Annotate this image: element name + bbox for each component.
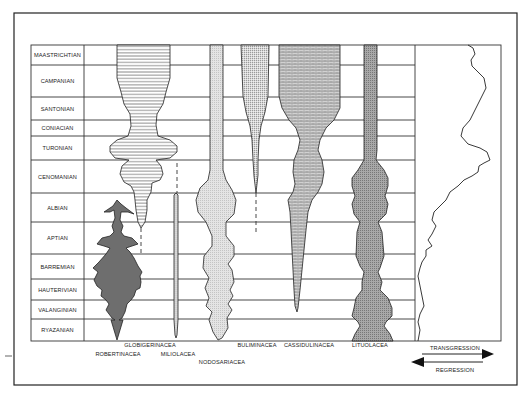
stage-label: RYAZANIAN xyxy=(41,327,73,333)
sea-level-curve xyxy=(418,45,490,341)
stage-label: VALANGINIAN xyxy=(38,307,76,313)
stage-label: BARREMIAN xyxy=(40,264,74,270)
stage-label: ALBIAN xyxy=(47,205,68,211)
taxon-labels: ROBERTINACEA GLOBIGERINACEA MILIOLACEA N… xyxy=(95,342,388,365)
miliolacea-range xyxy=(174,193,178,338)
transgression-label: TRANSGRESSION xyxy=(430,345,480,351)
stage-label: TURONIAN xyxy=(42,145,72,151)
globigerinacea-range xyxy=(110,45,177,228)
sea-level-legend: TRANSGRESSION REGRESSION xyxy=(411,345,494,373)
nodosariacea-range xyxy=(196,45,236,340)
stage-label: APTIAN xyxy=(47,235,68,241)
regression-arrowhead-icon xyxy=(411,357,424,367)
stage-label: CAMPANIAN xyxy=(41,78,75,84)
stage-labels: MAASTRICHTIAN CAMPANIAN SANTONIAN CONIAC… xyxy=(34,52,81,333)
regression-label: REGRESSION xyxy=(436,367,474,373)
cassidulinacea-range xyxy=(279,45,340,312)
taxon-label: CASSIDULINACEA xyxy=(284,342,334,348)
foraminifera-range-diagram: MAASTRICHTIAN CAMPANIAN SANTONIAN CONIAC… xyxy=(0,0,527,394)
taxon-label: MILIOLACEA xyxy=(161,351,196,357)
taxon-label: BULIMINACEA xyxy=(237,342,276,348)
stage-label: SANTONIAN xyxy=(41,106,74,112)
transgression-arrowhead-icon xyxy=(482,349,494,359)
stage-label: CONIACIAN xyxy=(42,125,74,131)
buliminacea-range xyxy=(241,45,269,193)
stage-label: HAUTERIVIAN xyxy=(38,287,77,293)
taxon-label: ROBERTINACEA xyxy=(95,351,140,357)
taxon-label: NODOSARIACEA xyxy=(199,359,245,365)
stage-label: CENOMANIAN xyxy=(38,174,77,180)
taxon-label: LITUOLACEA xyxy=(352,342,388,348)
taxon-label: GLOBIGERINACEA xyxy=(124,342,176,348)
stage-label: MAASTRICHTIAN xyxy=(34,52,81,58)
